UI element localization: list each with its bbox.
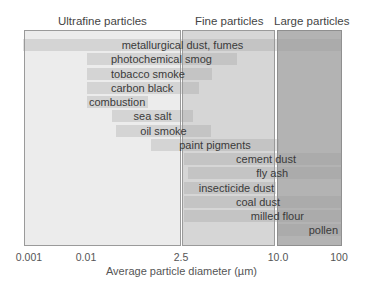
x-tick-10: 10.0 (268, 251, 288, 263)
bar-pollen: pollen (278, 224, 342, 236)
bar-oil-smoke: oil smoke (116, 125, 211, 137)
x-tick-0.01: 0.01 (76, 251, 96, 263)
bar-milled-flour: milled flour (184, 210, 342, 222)
x-tick-100: 100 (330, 251, 348, 263)
bar-combustion: combustion (87, 96, 148, 108)
chart-plot-area: metallurgical dust, fumes photochemical … (24, 30, 342, 246)
region-label-ultrafine: Ultrafine particles (58, 15, 147, 27)
region-label-large: Large particles (274, 15, 349, 27)
bar-cement-dust: cement dust (184, 153, 342, 165)
bar-coal-dust: coal dust (184, 196, 342, 208)
x-tick-0.001: 0.001 (16, 251, 42, 263)
x-axis-label: Average particle diameter (µm) (0, 265, 367, 277)
bar-metallurgical-dust: metallurgical dust, fumes (23, 39, 342, 51)
x-tick-2.5: 2.5 (174, 251, 189, 263)
bar-tobacco-smoke: tobacco smoke (87, 68, 212, 80)
bar-carbon-black: carbon black (87, 82, 199, 94)
bar-paint-pigments: paint pigments (151, 139, 279, 151)
bar-insecticide-dust: insecticide dust (184, 182, 276, 194)
bar-sea-salt: sea salt (112, 110, 193, 122)
region-label-fine: Fine particles (195, 15, 263, 27)
bar-fly-ash: fly ash (188, 167, 342, 179)
bar-photochemical-smog: photochemical smog (87, 53, 237, 65)
